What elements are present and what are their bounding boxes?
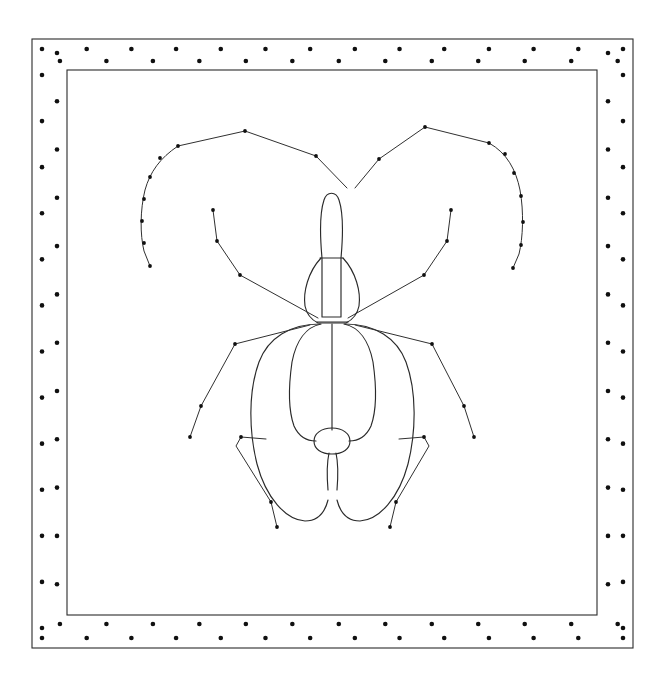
- border-dot-bottom-outer: [174, 636, 179, 641]
- joint-dot-antenna-left: [142, 197, 146, 201]
- border-dot-right-outer: [621, 73, 626, 78]
- border-dot-right-inner: [606, 99, 611, 104]
- joint-dot-antenna-left: [314, 154, 318, 158]
- border-dot-left-outer: [40, 626, 45, 631]
- border-dot-left-inner: [55, 196, 60, 201]
- border-dot-bottom-outer: [576, 636, 581, 641]
- joint-dot-hindleg-left: [239, 435, 243, 439]
- border-dot-bottom-outer: [308, 636, 313, 641]
- border-dot-right-outer: [621, 580, 626, 585]
- border-dot-top-inner: [615, 59, 620, 64]
- border-dot-top-outer: [174, 47, 179, 52]
- border-dot-left-outer: [40, 165, 45, 170]
- border-dot-right-inner: [606, 582, 611, 587]
- border-dot-top-inner: [290, 59, 295, 64]
- insect-plate: [0, 0, 666, 688]
- joint-dot-antenna-right: [487, 141, 491, 145]
- border-dot-left-outer: [40, 534, 45, 539]
- border-dot-top-inner: [151, 59, 156, 64]
- border-dot-right-outer: [621, 626, 626, 631]
- joint-dot-antenna-left: [176, 144, 180, 148]
- border-dot-top-outer: [84, 47, 89, 52]
- border-dot-top-inner: [337, 59, 342, 64]
- left-antenna: [141, 131, 347, 266]
- joint-dot-antenna-right: [512, 171, 516, 175]
- joint-dot-antenna-left: [140, 219, 144, 223]
- border-dot-top-inner: [197, 59, 202, 64]
- border-dot-right-outer: [621, 211, 626, 216]
- border-dot-right-outer: [621, 349, 626, 354]
- right-hindleg: [390, 437, 429, 527]
- border-dot-top-outer: [621, 47, 626, 52]
- border-dot-bottom-inner: [58, 622, 63, 627]
- left-elytron-outer: [251, 324, 328, 521]
- border-dot-right-inner: [606, 485, 611, 490]
- border-dot-bottom-outer: [442, 636, 447, 641]
- border-dot-bottom-outer: [40, 636, 45, 641]
- border-dot-bottom-outer: [129, 636, 134, 641]
- border-dot-top-outer: [397, 47, 402, 52]
- border-dot-top-outer: [576, 47, 581, 52]
- border-dot-left-outer: [40, 211, 45, 216]
- border-dot-bottom-outer: [218, 636, 223, 641]
- joint-dot-foreleg-right: [449, 208, 453, 212]
- joint-dot-midleg-right: [462, 404, 466, 408]
- abdominal-tip-left: [327, 453, 329, 490]
- border-dot-right-outer: [621, 165, 626, 170]
- border-dot-bottom-outer: [531, 636, 536, 641]
- border-dot-left-inner: [55, 99, 60, 104]
- joint-dot-hindleg-left: [269, 500, 273, 504]
- border-dot-bottom-inner: [429, 622, 434, 627]
- border-dot-left-outer: [40, 441, 45, 446]
- joint-dot-foreleg-right: [445, 239, 449, 243]
- border-dot-right-inner: [606, 51, 611, 56]
- joint-dot-midleg-left: [233, 342, 237, 346]
- joint-dot-antenna-left: [148, 175, 152, 179]
- border-dot-right-inner: [606, 147, 611, 152]
- joint-dot-antenna-right: [511, 266, 515, 270]
- border-dot-top-outer: [308, 47, 313, 52]
- joint-dot-antenna-right: [521, 220, 525, 224]
- border-dot-top-inner: [58, 59, 63, 64]
- border-dot-left-inner: [55, 534, 60, 539]
- pronotum-outline: [305, 258, 360, 323]
- border-dot-bottom-inner: [197, 622, 202, 627]
- border-dot-right-inner: [606, 292, 611, 297]
- left-hindleg: [236, 437, 277, 527]
- border-dot-left-outer: [40, 257, 45, 262]
- border-dot-left-outer: [40, 395, 45, 400]
- insect-figure: [140, 125, 525, 529]
- right-antenna: [355, 127, 523, 268]
- border-dot-left-inner: [55, 389, 60, 394]
- border-dot-right-inner: [606, 340, 611, 345]
- border-dot-bottom-outer: [397, 636, 402, 641]
- joint-dot-antenna-right: [519, 243, 523, 247]
- border-dot-bottom-inner: [615, 622, 620, 627]
- border-dot-bottom-inner: [476, 622, 481, 627]
- joint-dot-foreleg-left: [215, 239, 219, 243]
- joint-dot-midleg-left: [188, 435, 192, 439]
- joint-dot-hindleg-left: [275, 525, 279, 529]
- border-dot-left-outer: [40, 119, 45, 124]
- joint-dot-hindleg-right: [388, 525, 392, 529]
- border-dot-right-outer: [621, 257, 626, 262]
- joint-dot-foreleg-left: [211, 208, 215, 212]
- joint-dot-antenna-right: [519, 194, 523, 198]
- head-outline: [321, 193, 343, 317]
- border-dot-left-inner: [55, 340, 60, 345]
- border-dot-top-inner: [522, 59, 527, 64]
- insect-drawing-canvas: [0, 0, 666, 688]
- border-dot-left-inner: [55, 582, 60, 587]
- border-dot-bottom-outer: [487, 636, 492, 641]
- joint-dot-foreleg-right: [422, 273, 426, 277]
- border-dot-right-outer: [621, 119, 626, 124]
- border-dot-left-outer: [40, 303, 45, 308]
- border-dot-bottom-outer: [621, 636, 626, 641]
- joint-dot-antenna-left: [243, 129, 247, 133]
- joint-dot-midleg-left: [199, 404, 203, 408]
- joint-dot-foreleg-left: [238, 273, 242, 277]
- border-dot-bottom-inner: [337, 622, 342, 627]
- border-dot-bottom-outer: [263, 636, 268, 641]
- border-dot-top-inner: [244, 59, 249, 64]
- border-dot-right-inner: [606, 534, 611, 539]
